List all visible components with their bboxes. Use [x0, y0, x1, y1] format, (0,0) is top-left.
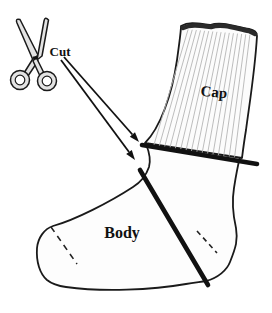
cut-arrow-upper	[64, 57, 139, 142]
diagram-canvas: Cut Cap Body	[0, 0, 272, 313]
label-cap: Cap	[200, 83, 228, 101]
sock-diagram: Cut Cap Body	[0, 0, 272, 313]
cut-arrow-lower	[61, 60, 135, 160]
label-cut: Cut	[50, 44, 72, 59]
label-body: Body	[104, 224, 140, 242]
sock-body-outline	[37, 144, 240, 290]
